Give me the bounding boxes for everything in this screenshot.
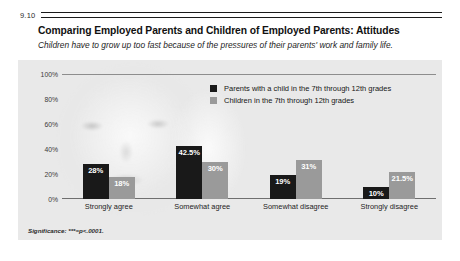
x-axis-labels: Strongly agree Somewhat agree Somewhat d… xyxy=(62,202,436,216)
figure-number: 9.10 xyxy=(20,11,35,20)
x-label-somewhat-disagree: Somewhat disagree xyxy=(250,202,342,211)
bar-children-somewhat-agree[interactable]: 30% xyxy=(202,162,228,200)
bar-parents-somewhat-agree[interactable]: 42.5% xyxy=(176,146,202,199)
bar-children-strongly-agree[interactable]: 18% xyxy=(109,177,135,200)
header-rule xyxy=(41,12,442,18)
chart-legend: Parents with a child in the 7th through … xyxy=(210,84,391,105)
figure-header: 9.10 xyxy=(0,8,460,22)
y-tick-0: 0% xyxy=(48,196,58,203)
chart-title: Comparing Employed Parents and Children … xyxy=(38,24,442,37)
x-label-strongly-agree: Strongly agree xyxy=(63,202,155,211)
legend-swatch-icon xyxy=(210,97,217,104)
chart-subtitle: Children have to grow up too fast becaus… xyxy=(38,40,442,51)
legend-label: Children in the 7th through 12th grades xyxy=(224,96,354,105)
legend-item-children[interactable]: Children in the 7th through 12th grades xyxy=(210,96,391,105)
bar-value-label: 28% xyxy=(88,167,103,175)
chart-panel: 100% 80% 60% 40% 20% 0% 28% 18% 42.5% xyxy=(18,60,442,240)
bar-value-label: 30% xyxy=(208,165,223,173)
y-axis: 100% 80% 60% 40% 20% 0% xyxy=(18,60,62,240)
bar-value-label: 18% xyxy=(114,180,129,188)
y-tick-100: 100% xyxy=(41,71,58,78)
bar-value-label: 10% xyxy=(369,190,384,198)
x-label-strongly-disagree: Strongly disagree xyxy=(343,202,435,211)
bar-parents-somewhat-disagree[interactable]: 19% xyxy=(270,175,296,199)
legend-label: Parents with a child in the 7th through … xyxy=(224,84,391,93)
bar-value-label: 42.5% xyxy=(178,149,200,157)
bar-children-strongly-disagree[interactable]: 21.5% xyxy=(389,172,415,199)
bar-value-label: 19% xyxy=(275,178,290,186)
legend-swatch-icon xyxy=(210,85,217,92)
legend-item-parents[interactable]: Parents with a child in the 7th through … xyxy=(210,84,391,93)
y-tick-40: 40% xyxy=(44,146,58,153)
bar-value-label: 21.5% xyxy=(391,175,413,183)
bar-children-somewhat-disagree[interactable]: 31% xyxy=(296,160,322,199)
bar-parents-strongly-agree[interactable]: 28% xyxy=(83,164,109,199)
bar-group-strongly-agree: 28% 18% xyxy=(83,74,135,199)
significance-note: Significance: ***=p<.0001. xyxy=(28,227,104,234)
y-tick-60: 60% xyxy=(44,121,58,128)
y-tick-20: 20% xyxy=(44,171,58,178)
bar-value-label: 31% xyxy=(301,163,316,171)
bar-parents-strongly-disagree[interactable]: 10% xyxy=(363,187,389,200)
y-tick-80: 80% xyxy=(44,96,58,103)
x-label-somewhat-agree: Somewhat agree xyxy=(156,202,248,211)
